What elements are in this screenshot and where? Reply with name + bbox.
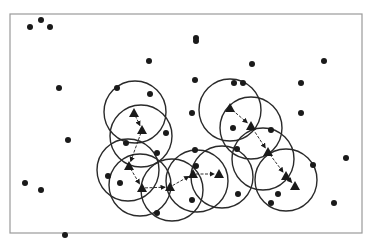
sensor-dot	[234, 146, 240, 152]
path-edge	[145, 187, 165, 188]
sensor-dot	[193, 163, 199, 169]
path-edge	[253, 129, 266, 148]
sensor-dot	[117, 180, 123, 186]
sensor-dot	[163, 130, 169, 136]
sensor-dot	[123, 140, 129, 146]
sensor-dot	[343, 155, 349, 161]
sensor-dot	[331, 200, 337, 206]
coverage-diagram	[0, 0, 379, 249]
anchor-triangle	[214, 169, 224, 178]
sensor-dot	[22, 180, 28, 186]
sensor-dot	[310, 162, 316, 168]
sensor-dot	[27, 24, 33, 30]
sensor-dot	[231, 80, 237, 86]
path-edge	[270, 154, 283, 172]
coverage-circle	[110, 105, 172, 167]
anchor-triangle	[129, 108, 139, 117]
sensor-dot	[105, 173, 111, 179]
sensor-dot	[154, 210, 160, 216]
sensor-dot	[154, 150, 160, 156]
sensor-dot	[298, 110, 304, 116]
anchor-triangle	[225, 103, 235, 112]
anchor-triangle	[246, 121, 256, 130]
sensor-dot	[235, 191, 241, 197]
diagram-canvas	[0, 0, 379, 249]
sensor-dot	[240, 80, 246, 86]
sensor-dot	[146, 58, 152, 64]
coverage-circles	[97, 79, 317, 221]
sensor-dot	[147, 91, 153, 97]
path-edge	[135, 116, 140, 126]
sensor-dot	[298, 80, 304, 86]
sensor-dot	[275, 191, 281, 197]
sensor-dot	[249, 61, 255, 67]
sensor-dot	[56, 85, 62, 91]
path-edge	[131, 169, 140, 184]
sensor-dot	[321, 58, 327, 64]
sensor-dot	[192, 77, 198, 83]
sensor-dots	[22, 17, 349, 238]
sensor-dot	[230, 125, 236, 131]
sensor-dot	[38, 17, 44, 23]
sensor-dot	[189, 197, 195, 203]
sensor-dot	[192, 147, 198, 153]
sensor-dot	[268, 200, 274, 206]
sensor-dot	[47, 24, 53, 30]
anchor-triangle	[137, 125, 147, 134]
sensor-dot	[65, 137, 71, 143]
sensor-dot	[189, 110, 195, 116]
sensor-dot	[268, 127, 274, 133]
path-edge	[131, 133, 141, 161]
sensor-dot	[114, 85, 120, 91]
sensor-dot	[193, 38, 199, 44]
path-edge	[173, 176, 189, 185]
sensor-dot	[62, 232, 68, 238]
sensor-dot	[38, 187, 44, 193]
